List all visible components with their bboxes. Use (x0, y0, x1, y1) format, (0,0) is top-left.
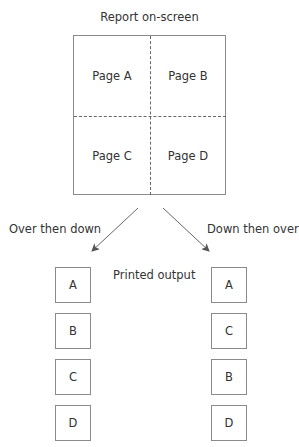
right-branch-label: Down then over (207, 222, 299, 236)
right-output-page-1: A (211, 267, 247, 303)
right-arrow-icon (163, 208, 209, 251)
left-output-page-1: A (55, 267, 91, 303)
right-output-page-4: D (211, 405, 247, 441)
left-branch-label: Over then down (9, 222, 101, 236)
left-output-page-3: C (55, 359, 91, 395)
right-output-page-2: C (211, 313, 247, 349)
printed-output-label: Printed output (113, 268, 195, 282)
left-output-page-4: D (55, 405, 91, 441)
left-output-page-2: B (55, 313, 91, 349)
right-output-page-3: B (211, 359, 247, 395)
